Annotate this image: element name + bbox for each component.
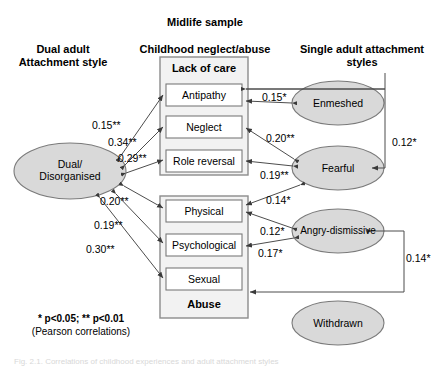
coef-fearful-physical: 0.14* bbox=[266, 194, 291, 206]
coef-dual-physical: 0.20** bbox=[100, 195, 129, 207]
diagram-canvas: Midlife sample Dual adult Attachment sty… bbox=[0, 0, 442, 368]
link-dual-physical bbox=[124, 186, 163, 208]
header-left-col-line2: Attachment style bbox=[8, 56, 118, 69]
ellipse-label-withdrawn: Withdrawn bbox=[292, 317, 384, 329]
figure-caption: Fig. 2.1. Correlations of childhood expe… bbox=[14, 357, 279, 366]
coef-enmeshed-antipathy: 0.15* bbox=[262, 91, 287, 103]
link-fearful-role-reversal bbox=[246, 161, 293, 166]
ellipse-label-dual-line2: Disorganised bbox=[14, 170, 126, 182]
coef-angry-physical: 0.12* bbox=[260, 225, 285, 237]
box-label-antipathy: Antipathy bbox=[166, 84, 242, 106]
coef-fearful-neglect: 0.20** bbox=[266, 132, 295, 144]
header-center-col: Childhood neglect/abuse bbox=[120, 43, 290, 56]
header-right-col-line2: styles bbox=[286, 56, 438, 69]
coef-dual-psychological: 0.19** bbox=[94, 219, 123, 231]
coef-dual-antipathy: 0.15** bbox=[92, 119, 121, 131]
ellipse-label-dual-line1: Dual/ bbox=[14, 158, 126, 170]
header-right-col-line1: Single adult attachment bbox=[286, 43, 438, 56]
coef-angry-withdrawn: 0.14* bbox=[406, 252, 431, 264]
legend-significance: * p<0.05; ** p<0.01 bbox=[6, 312, 156, 325]
group-title-abuse: Abuse bbox=[160, 298, 248, 310]
ellipse-label-dual: Dual/ Disorganised bbox=[14, 158, 126, 182]
box-label-psychological: Psychological bbox=[162, 234, 246, 256]
link-angry-psychological bbox=[246, 238, 294, 246]
coef-dual-neglect: 0.34** bbox=[108, 136, 137, 148]
box-label-sexual: Sexual bbox=[166, 268, 242, 290]
coef-fearful-role-reversal: 0.19** bbox=[260, 169, 289, 181]
ellipse-label-enmeshed: Enmeshed bbox=[292, 97, 384, 109]
box-label-physical: Physical bbox=[166, 200, 242, 222]
box-label-neglect: Neglect bbox=[166, 116, 242, 138]
legend-method: (Pearson correlations) bbox=[6, 325, 156, 338]
legend: * p<0.05; ** p<0.01 (Pearson correlation… bbox=[6, 312, 156, 338]
coef-angry-psychological: 0.17* bbox=[258, 247, 283, 259]
ellipse-label-angry-dismissive: Angry-dismissive bbox=[288, 225, 388, 237]
coef-dual-role-reversal: 0.29** bbox=[118, 152, 147, 164]
group-title-lack-of-care: Lack of care bbox=[160, 62, 248, 74]
ellipse-label-fearful: Fearful bbox=[292, 162, 384, 174]
box-label-role-reversal: Role reversal bbox=[164, 150, 244, 172]
coef-enmeshed-fearful: 0.12* bbox=[392, 136, 417, 148]
coef-dual-sexual: 0.30** bbox=[86, 243, 115, 255]
header-left-col-line1: Dual adult bbox=[8, 43, 118, 56]
header-midlife-sample: Midlife sample bbox=[145, 16, 265, 29]
